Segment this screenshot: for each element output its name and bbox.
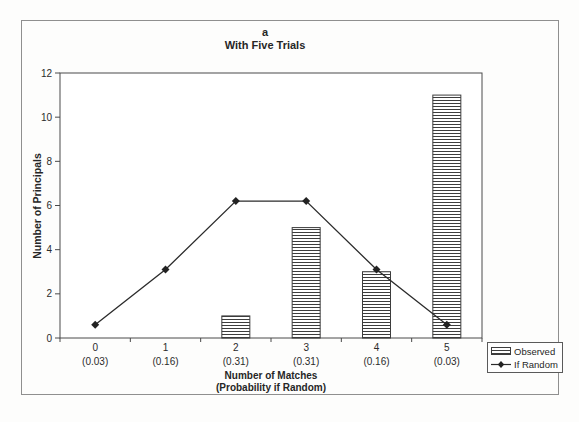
x-axis-title: Number of Matches — [60, 370, 482, 381]
plot-area — [60, 73, 482, 338]
x-category-sublabel: (0.03) — [434, 356, 460, 367]
x-category-sublabel: (0.16) — [363, 356, 389, 367]
legend-label-observed: Observed — [514, 346, 555, 357]
observed-bar-swatch-icon — [491, 347, 511, 355]
y-tick-label: 8 — [46, 156, 52, 167]
x-category-label: 2 — [233, 342, 239, 353]
legend-label-if-random: If Random — [514, 359, 558, 370]
y-tick-label: 6 — [46, 200, 52, 211]
y-axis-title: Number of Principals — [31, 116, 45, 296]
x-category-label: 3 — [303, 342, 309, 353]
x-category-sublabel: (0.31) — [223, 356, 249, 367]
x-category-label: 4 — [374, 342, 380, 353]
x-axis-title-sub: (Probability if Random) — [60, 382, 482, 393]
x-category-label: 5 — [444, 342, 450, 353]
legend-item-observed: Observed — [491, 346, 560, 357]
x-category-label: 0 — [92, 342, 98, 353]
y-tick-label: 0 — [46, 333, 52, 344]
observed-bar-5 — [433, 95, 461, 338]
legend: Observed If Random — [487, 342, 563, 373]
x-category-sublabel: (0.31) — [293, 356, 319, 367]
y-tick-label: 2 — [46, 288, 52, 299]
x-category-label: 1 — [163, 342, 169, 353]
if-random-line-swatch-icon — [491, 360, 511, 369]
observed-bar-4 — [363, 272, 391, 338]
x-category-sublabel: (0.03) — [82, 356, 108, 367]
observed-bar-2 — [222, 316, 250, 338]
x-category-sublabel: (0.16) — [152, 356, 178, 367]
observed-bar-3 — [292, 228, 320, 338]
legend-item-if-random: If Random — [491, 359, 560, 370]
y-tick-label: 4 — [46, 244, 52, 255]
scanned-figure-page: a With Five Trials 0246810120(0.03)1(0.1… — [0, 0, 579, 422]
y-tick-label: 12 — [41, 68, 53, 79]
